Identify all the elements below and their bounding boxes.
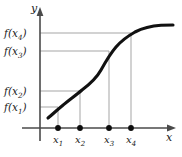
y-tick-label-fx3: f(x3) — [3, 45, 27, 60]
x-tick-label-x3: x3 — [104, 134, 115, 148]
y-tick-fx2-base: f(x — [3, 85, 18, 97]
x-tick-label-x4: x4 — [126, 134, 136, 148]
x-tick-x4-sub: 4 — [131, 140, 136, 148]
y-tick-labels: f(x4) f(x3) f(x2) f(x1) — [3, 27, 27, 116]
y-tick-label-fx4: f(x4) — [3, 27, 27, 42]
x-tick-x2-sub: 2 — [80, 140, 86, 148]
y-tick-fx1-close: ) — [21, 101, 26, 113]
dot-x2 — [77, 125, 83, 131]
dot-x4 — [128, 125, 134, 131]
x-axis-label: x — [166, 131, 173, 144]
x-tick-x1-sub: 1 — [59, 140, 63, 148]
x-tick-label-x2: x2 — [75, 134, 86, 148]
x-axis — [22, 125, 176, 132]
y-tick-label-fx1: f(x1) — [3, 101, 27, 116]
y-axis-label: y — [30, 2, 38, 15]
y-tick-label-fx2: f(x2) — [3, 85, 27, 100]
y-tick-fx3-base: f(x — [3, 45, 18, 57]
function-graph-figure: y x f(x4) f(x3) f(x2) f(x1) x1 x2 — [0, 0, 182, 157]
y-axis — [37, 7, 44, 141]
y-tick-fx4-close: ) — [21, 27, 26, 39]
graph-canvas: y x f(x4) f(x3) f(x2) f(x1) x1 x2 — [0, 0, 182, 157]
y-tick-fx4-base: f(x — [3, 27, 18, 39]
x-tick-x3-sub: 3 — [110, 140, 115, 148]
x-tick-labels: x1 x2 x3 x4 — [53, 134, 136, 148]
dot-x1 — [55, 125, 61, 131]
y-tick-fx1-base: f(x — [3, 101, 18, 113]
y-tick-fx3-close: ) — [21, 45, 26, 57]
dot-x3 — [106, 125, 112, 131]
y-axis-arrowhead — [37, 7, 44, 16]
y-tick-fx2-close: ) — [21, 85, 26, 97]
x-tick-label-x1: x1 — [53, 134, 63, 148]
sigmoid-curve — [48, 25, 173, 118]
